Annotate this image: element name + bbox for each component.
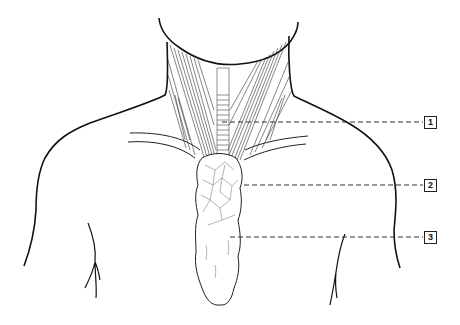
leader-lines [222, 122, 423, 237]
trachea [217, 68, 229, 163]
label-2: 2 [424, 179, 437, 192]
left-shoulder-outline [24, 42, 168, 266]
right-shoulder-outline [289, 36, 400, 268]
gland [195, 154, 242, 306]
anatomy-diagram [0, 0, 460, 325]
label-3: 3 [424, 231, 437, 244]
right-clavicle [244, 136, 308, 160]
right-axilla-line [330, 234, 345, 305]
left-axilla-line [85, 223, 100, 298]
label-1: 1 [424, 116, 437, 129]
